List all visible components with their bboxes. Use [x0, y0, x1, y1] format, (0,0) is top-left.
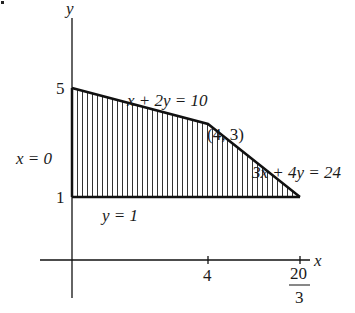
label-y-eq-1: y = 1: [100, 206, 138, 225]
x-tick-label-20-denominator: 3: [295, 288, 304, 307]
x-tick-label-20-numerator: 20: [290, 264, 307, 283]
label-3x-plus-4y-eq-24: 3x + 4y = 24: [251, 163, 342, 182]
y-tick-label-5: 5: [56, 79, 65, 98]
feasible-region-diagram: y x 5 1 4 20 3 x + 2y = 10 (4, 3) 3x + 4…: [0, 0, 355, 313]
stray-dot: [1, 1, 4, 4]
y-tick-label-1: 1: [56, 188, 65, 207]
label-x-plus-2y-eq-10: x + 2y = 10: [126, 91, 208, 110]
x-tick-label-4: 4: [203, 266, 212, 285]
label-x-eq-0: x = 0: [15, 149, 53, 168]
label-vertex-4-3: (4, 3): [207, 125, 244, 144]
x-axis-label: x: [313, 251, 322, 270]
y-axis-label: y: [64, 0, 74, 18]
